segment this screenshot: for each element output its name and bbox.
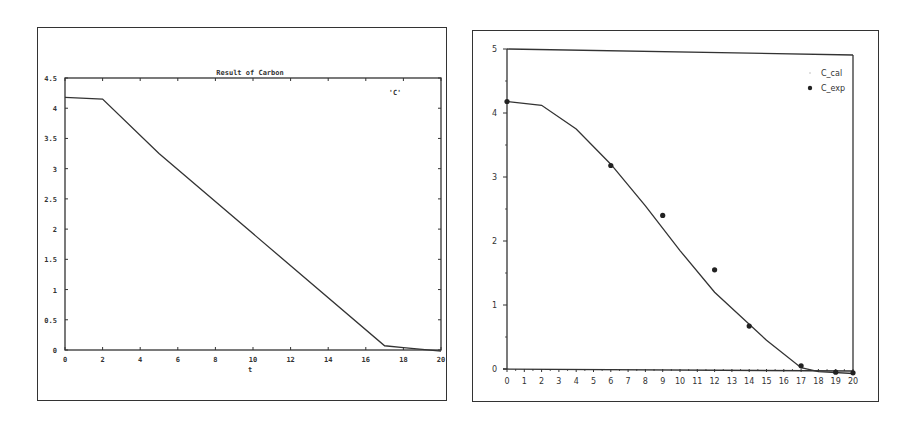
y-tick-label: 0 — [492, 365, 497, 374]
left-chart-svg: Result of Carbon 0246810121416182000.511… — [38, 28, 448, 402]
x-tick-label: 2 — [539, 377, 544, 386]
x-tick-label: 4 — [574, 377, 579, 386]
x-tick-label: 0 — [63, 356, 67, 364]
y-tick-label: 5 — [492, 45, 497, 54]
x-tick-label: 12 — [286, 356, 294, 364]
x-tick-label: 14 — [324, 356, 332, 364]
x-tick-label: 17 — [796, 377, 806, 386]
y-tick-label: 1.5 — [44, 256, 57, 264]
x-tick-label: 15 — [761, 377, 771, 386]
data-point — [850, 370, 855, 375]
x-tick-label: 13 — [727, 377, 737, 386]
y-tick-label: 2 — [492, 237, 497, 246]
y-tick-label: 1 — [53, 287, 57, 295]
data-point — [747, 324, 752, 329]
data-point — [608, 163, 613, 168]
y-tick-label: 0.5 — [44, 317, 57, 325]
x-tick-label: 11 — [692, 377, 702, 386]
x-tick-label: 0 — [504, 377, 509, 386]
series-line-c-cal — [507, 101, 853, 373]
x-tick-label: 12 — [710, 377, 720, 386]
left-axes: 0246810121416182000.511.522.533.544.5 — [44, 75, 445, 364]
x-tick-label: 5 — [591, 377, 596, 386]
data-point — [799, 363, 804, 368]
right-axes: 01234567891011121314151617181920012345 — [492, 45, 858, 386]
x-tick-label: 1 — [522, 377, 527, 386]
legend-label-cal: C_cal — [821, 69, 842, 78]
y-tick-label: 4 — [53, 105, 57, 113]
x-tick-label: 19 — [831, 377, 841, 386]
x-tick-label: 20 — [848, 377, 858, 386]
data-point — [660, 213, 665, 218]
x-tick-label: 10 — [675, 377, 685, 386]
x-tick-label: 7 — [626, 377, 631, 386]
y-tick-label: 3 — [492, 173, 497, 182]
x-tick-label: 9 — [660, 377, 665, 386]
chart-title: Result of Carbon — [216, 69, 283, 77]
right-chart-panel: 01234567891011121314151617181920012345 C… — [472, 30, 879, 402]
y-tick-label: 3.5 — [44, 135, 57, 143]
y-tick-label: 4 — [492, 109, 497, 118]
data-point — [833, 370, 838, 375]
x-tick-label: 14 — [744, 377, 754, 386]
y-tick-label: 0 — [53, 347, 57, 355]
legend-label: 'C' — [389, 89, 402, 97]
x-tick-label: 10 — [249, 356, 257, 364]
x-tick-label: 6 — [608, 377, 613, 386]
y-tick-label: 2.5 — [44, 196, 57, 204]
x-tick-label: 16 — [779, 377, 789, 386]
y-tick-label: 1 — [492, 301, 497, 310]
y-tick-label: 2 — [53, 226, 57, 234]
data-point — [504, 99, 509, 104]
x-tick-label: 18 — [399, 356, 407, 364]
legend-marker-cal — [809, 72, 811, 74]
x-tick-label: 2 — [100, 356, 104, 364]
legend-marker-exp — [808, 86, 812, 90]
x-tick-label: 6 — [176, 356, 180, 364]
legend-label-exp: C_exp — [821, 84, 845, 93]
x-axis — [503, 369, 853, 371]
x-axis-label: t — [248, 366, 252, 374]
x-tick-label: 18 — [813, 377, 823, 386]
y-tick-label: 3 — [53, 166, 57, 174]
y-tick-label: 4.5 — [44, 75, 57, 83]
x-tick-label: 8 — [213, 356, 217, 364]
legend: C_cal C_exp — [808, 69, 845, 93]
series-line-c — [65, 97, 441, 351]
left-chart-panel: Result of Carbon 0246810121416182000.511… — [37, 27, 447, 401]
data-point — [712, 267, 717, 272]
x-tick-label: 16 — [362, 356, 370, 364]
x-tick-label: 3 — [556, 377, 561, 386]
x-tick-label: 8 — [643, 377, 648, 386]
right-chart-svg: 01234567891011121314151617181920012345 C… — [473, 31, 880, 403]
series-points-c-exp — [504, 99, 855, 376]
plot-frame — [65, 78, 441, 350]
x-tick-label: 4 — [138, 356, 142, 364]
x-tick-label: 20 — [437, 356, 445, 364]
